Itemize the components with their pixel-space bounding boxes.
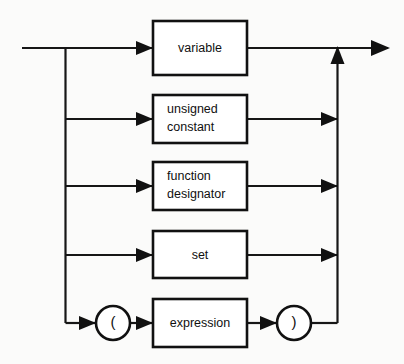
unsigned-constant-box-label-line1: unsigned — [167, 102, 218, 116]
node-unsigned-constant[interactable]: unsigned constant — [153, 95, 247, 143]
arrow-into-function-designator — [136, 179, 153, 193]
node-set[interactable]: set — [153, 231, 247, 278]
arrow-into-close-paren — [260, 316, 277, 330]
arrow-merge-unsigned-constant — [321, 112, 338, 126]
node-function-designator[interactable]: function designator — [153, 162, 247, 210]
variable-box-label: variable — [178, 41, 222, 55]
node-close-paren[interactable]: ) — [277, 306, 311, 340]
node-expression[interactable]: expression — [153, 299, 247, 347]
arrow-into-expression — [136, 316, 153, 330]
node-open-paren[interactable]: ( — [96, 306, 130, 340]
arrow-into-unsigned-constant — [136, 112, 153, 126]
arrow-diagram-exit — [371, 40, 390, 56]
railroad-diagram-svg: variable unsigned constant function desi… — [0, 0, 404, 364]
syntax-diagram-canvas: variable unsigned constant function desi… — [0, 0, 404, 364]
arrow-merge-set — [321, 248, 338, 262]
expression-box-label: expression — [170, 316, 230, 330]
arrow-into-open-paren — [79, 316, 96, 330]
close-paren-label: ) — [292, 313, 297, 330]
function-designator-box-label-line1: function — [167, 169, 211, 183]
function-designator-box-label-line2: designator — [167, 187, 225, 201]
set-box-label: set — [192, 248, 209, 262]
open-paren-label: ( — [111, 313, 116, 330]
unsigned-constant-box-label-line2: constant — [167, 120, 215, 134]
node-variable[interactable]: variable — [153, 21, 247, 75]
arrow-into-set — [136, 248, 153, 262]
arrow-merge-function-designator — [321, 179, 338, 193]
arrow-into-variable — [136, 41, 153, 55]
